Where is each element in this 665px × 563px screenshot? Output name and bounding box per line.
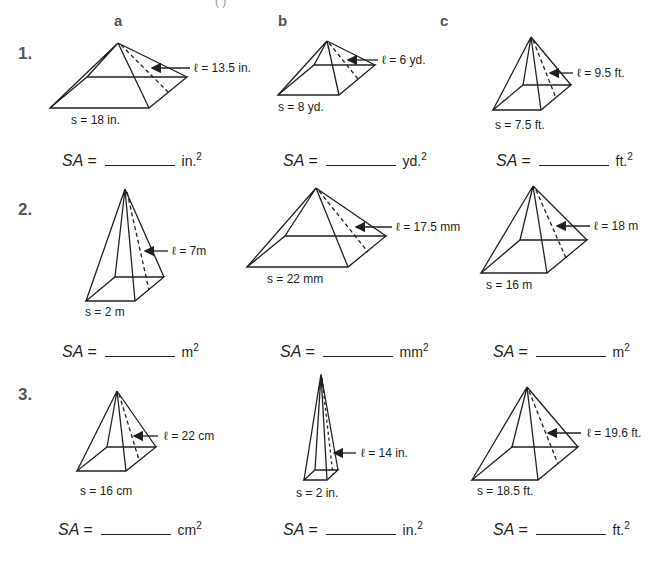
unit-1c: ft.2 (616, 151, 633, 169)
pyramid-1b-icon (278, 41, 378, 95)
slant-height-label-3a: ℓ = 22 cm (164, 429, 214, 443)
unit-2b: mm2 (400, 342, 429, 360)
unit-3c: ft.2 (613, 520, 630, 538)
answer-blank-2a[interactable] (105, 342, 175, 357)
answer-3b: SA = in.2 (283, 520, 423, 539)
answer-blank-3a[interactable] (101, 520, 171, 535)
sa-label: SA = (283, 521, 318, 539)
slant-height-label-2c: ℓ = 18 m (594, 219, 638, 233)
answer-blank-2c[interactable] (536, 342, 606, 357)
pyramid-2c-icon (481, 186, 590, 273)
pyramid-3b-icon (304, 374, 356, 480)
unit-2c: m2 (613, 342, 630, 360)
slant-height-label-1b: ℓ = 6 yd. (382, 53, 426, 67)
unit-1b: yd.2 (403, 151, 427, 169)
slant-height-label-1a: ℓ = 13.5 in. (194, 61, 251, 75)
answer-blank-2b[interactable] (323, 342, 393, 357)
sa-label: SA = (58, 521, 93, 539)
sa-label: SA = (493, 521, 528, 539)
answer-blank-1c[interactable] (539, 151, 609, 166)
side-label-3a: s = 16 cm (80, 484, 132, 498)
sa-label: SA = (280, 343, 315, 361)
answer-3c: SA = ft.2 (493, 520, 630, 539)
slant-height-label-2b: ℓ = 17.5 mm (396, 220, 460, 234)
unit-1a: in.2 (182, 151, 202, 169)
pyramid-3c-icon (472, 387, 581, 480)
pyramid-figures (0, 0, 665, 563)
answer-2b: SA = mm2 (280, 342, 428, 361)
answer-3a: SA = cm2 (58, 520, 202, 539)
sa-label: SA = (283, 152, 318, 170)
side-label-2c: s = 16 m (486, 278, 532, 292)
sa-label: SA = (496, 152, 531, 170)
slant-height-label-1c: ℓ = 9.5 ft. (577, 66, 625, 80)
pyramid-2b-icon (247, 188, 392, 267)
unit-3a: cm2 (178, 520, 202, 538)
sa-label: SA = (62, 343, 97, 361)
unit-2a: m2 (182, 342, 199, 360)
answer-1a: SA = in.2 (62, 151, 202, 170)
pyramid-1a-icon (50, 43, 190, 108)
answer-2a: SA = m2 (62, 342, 199, 361)
sa-label: SA = (493, 343, 528, 361)
answer-1c: SA = ft.2 (496, 151, 633, 170)
slant-height-label-2a: ℓ = 7m (172, 244, 206, 258)
answer-2c: SA = m2 (493, 342, 630, 361)
slant-height-label-3b: ℓ = 14 in. (361, 446, 408, 460)
answer-blank-1b[interactable] (326, 151, 396, 166)
pyramid-3a-icon (77, 391, 158, 471)
side-label-1a: s = 18 in. (71, 113, 120, 127)
sa-label: SA = (62, 152, 97, 170)
side-label-3c: s = 18.5 ft. (477, 484, 533, 498)
answer-blank-1a[interactable] (105, 151, 175, 166)
side-label-2b: s = 22 mm (267, 272, 323, 286)
side-label-1b: s = 8 yd. (278, 100, 324, 114)
answer-1b: SA = yd.2 (283, 151, 427, 170)
side-label-2a: s = 2 m (85, 305, 125, 319)
side-label-1c: s = 7.5 ft. (495, 118, 545, 132)
pyramid-2a-icon (86, 189, 168, 301)
answer-blank-3b[interactable] (326, 520, 396, 535)
answer-blank-3c[interactable] (536, 520, 606, 535)
side-label-3b: s = 2 in. (296, 486, 338, 500)
pyramid-1c-icon (493, 37, 573, 110)
slant-height-label-3c: ℓ = 19.6 ft. (587, 426, 641, 440)
unit-3b: in.2 (403, 520, 423, 538)
